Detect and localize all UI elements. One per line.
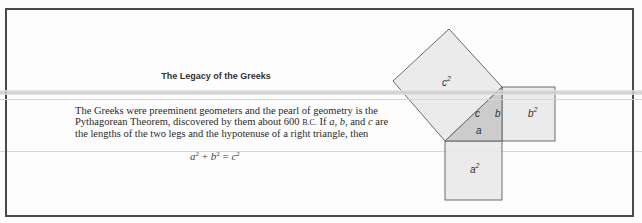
label-side-b: b: [495, 108, 501, 119]
pythagorean-diagram: c2 b2 a2 c b a: [0, 0, 642, 223]
scan-band: [0, 90, 642, 95]
scan-line-upper: [0, 99, 642, 100]
label-side-a: a: [476, 125, 482, 136]
label-side-c: c: [475, 108, 480, 119]
